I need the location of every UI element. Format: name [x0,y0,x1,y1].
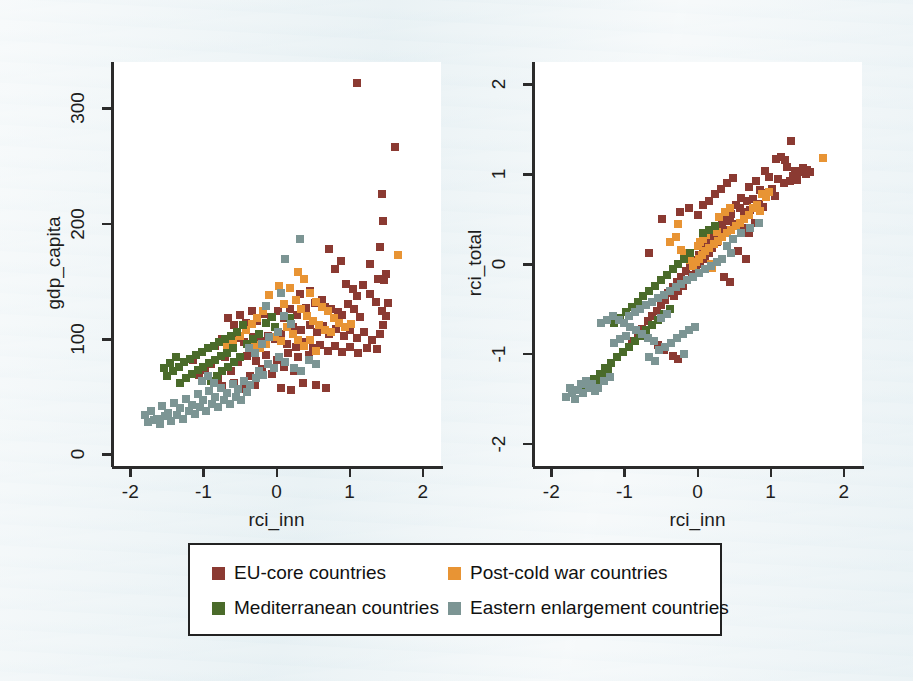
y-axis-title-right: rci_total [464,61,486,465]
data-point [737,229,745,237]
x-tick [770,468,773,477]
data-point [694,211,702,219]
x-tick-label: 1 [743,481,799,503]
data-point [755,219,763,227]
scatter-figure: 0100200300 -2-1012 gdp_capita rci_inn -2… [0,0,913,681]
data-point [787,137,795,145]
data-point [746,224,754,232]
x-tick-label: 2 [816,481,872,503]
y-tick [523,263,532,266]
data-point [663,310,671,318]
data-point [686,249,694,257]
legend-entry[interactable]: Eastern enlargement countries [448,597,729,619]
data-point [680,350,688,358]
legend-label: Mediterranean countries [234,597,439,619]
data-point [745,183,753,191]
legend-entry[interactable]: EU-core countries [212,562,386,584]
data-point [597,319,605,327]
legend-entry[interactable]: Post-cold war countries [448,562,667,584]
x-tick [550,468,553,477]
y-tick [523,443,532,446]
data-point [729,174,737,182]
y-tick-label: 0 [488,236,510,292]
y-axis-line-right [532,62,535,467]
legend-label: Eastern enlargement countries [470,597,729,619]
data-point [726,278,734,286]
data-point [645,249,653,257]
data-point [819,154,827,162]
y-tick-label: 1 [488,146,510,202]
country-group-legend: EU-core countriesPost-cold war countries… [188,543,722,636]
data-point [571,395,579,403]
data-point [765,188,773,196]
y-tick-label: -2 [488,416,510,472]
legend-entry[interactable]: Mediterranean countries [212,597,439,619]
data-point [726,204,734,212]
data-point [756,207,764,215]
data-point [699,229,707,237]
data-point [727,249,735,257]
data-point [658,215,666,223]
x-tick-label: -2 [523,481,579,503]
x-tick [843,468,846,477]
data-point [806,168,814,176]
data-point [718,255,726,263]
data-point [791,167,799,175]
data-point [610,339,618,347]
plot-area-right [533,62,862,466]
y-tick [523,173,532,176]
data-point [666,238,674,246]
legend-swatch-icon [448,567,461,580]
data-point [677,246,685,254]
y-tick-label: -1 [488,326,510,382]
y-tick [523,83,532,86]
data-point [676,208,684,216]
legend-label: EU-core countries [234,562,386,584]
y-tick [523,353,532,356]
data-point [752,177,760,185]
legend-swatch-icon [212,567,225,580]
x-tick [697,468,700,477]
data-point [685,204,693,212]
x-tick-label: -1 [596,481,652,503]
data-point [562,393,570,401]
x-axis-title-right: rci_inn [533,509,862,531]
data-point [742,255,750,263]
data-point [691,323,699,331]
data-point [655,346,663,354]
data-point [772,155,780,163]
x-tick [623,468,626,477]
data-point [783,163,791,171]
data-point [765,173,773,181]
legend-swatch-icon [212,602,225,615]
data-point [594,384,602,392]
data-point [651,357,659,365]
data-point [566,384,574,392]
legend-label: Post-cold war countries [470,562,667,584]
x-tick-label: 0 [670,481,726,503]
data-point [793,176,801,184]
data-point [606,373,614,381]
legend-swatch-icon [448,602,461,615]
y-tick-label: 2 [488,56,510,112]
data-point [705,197,713,205]
data-point [674,220,682,228]
